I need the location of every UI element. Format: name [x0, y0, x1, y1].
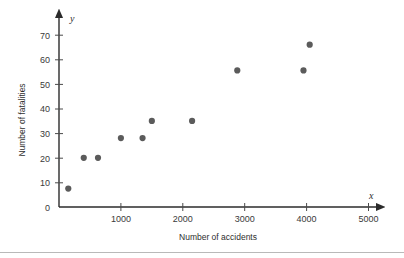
y-tick-label: 60 [40, 55, 50, 65]
x-tick-label: 1000 [111, 214, 131, 224]
y-tick-label: 10 [40, 178, 50, 188]
y-tick-label: 30 [40, 129, 50, 139]
x-tick-label: 3000 [235, 214, 255, 224]
data-point [81, 155, 87, 161]
y-tick-label: 0 [45, 203, 50, 213]
x-tick-label: 4000 [297, 214, 317, 224]
y-axis-variable-label: y [69, 13, 75, 24]
data-point [189, 118, 195, 124]
x-axis-variable-label: x [368, 190, 374, 201]
data-point [65, 185, 71, 191]
x-tick-label: 2000 [173, 214, 193, 224]
data-point [234, 67, 240, 73]
y-tick-label: 20 [40, 154, 50, 164]
data-point [307, 42, 313, 48]
x-axis-title: Number of accidents [179, 232, 257, 242]
data-point [300, 67, 306, 73]
scatter-plot-canvas: y x 70 60 50 40 30 20 10 0 1000 2000 [0, 0, 404, 258]
data-point [95, 155, 101, 161]
x-tick-group: 1000 2000 3000 4000 5000 [111, 203, 379, 224]
y-tick-label: 70 [40, 31, 50, 41]
y-tick-label: 40 [40, 104, 50, 114]
data-point [118, 135, 124, 141]
y-tick-label: 50 [40, 80, 50, 90]
data-point-group [65, 42, 313, 192]
scatter-plot-figure: y x 70 60 50 40 30 20 10 0 1000 2000 [0, 0, 404, 258]
y-axis-title: Number of fatalities [17, 83, 27, 156]
data-point [139, 135, 145, 141]
page-divider-rule [0, 252, 404, 253]
x-tick-label: 5000 [358, 214, 378, 224]
data-point [149, 118, 155, 124]
